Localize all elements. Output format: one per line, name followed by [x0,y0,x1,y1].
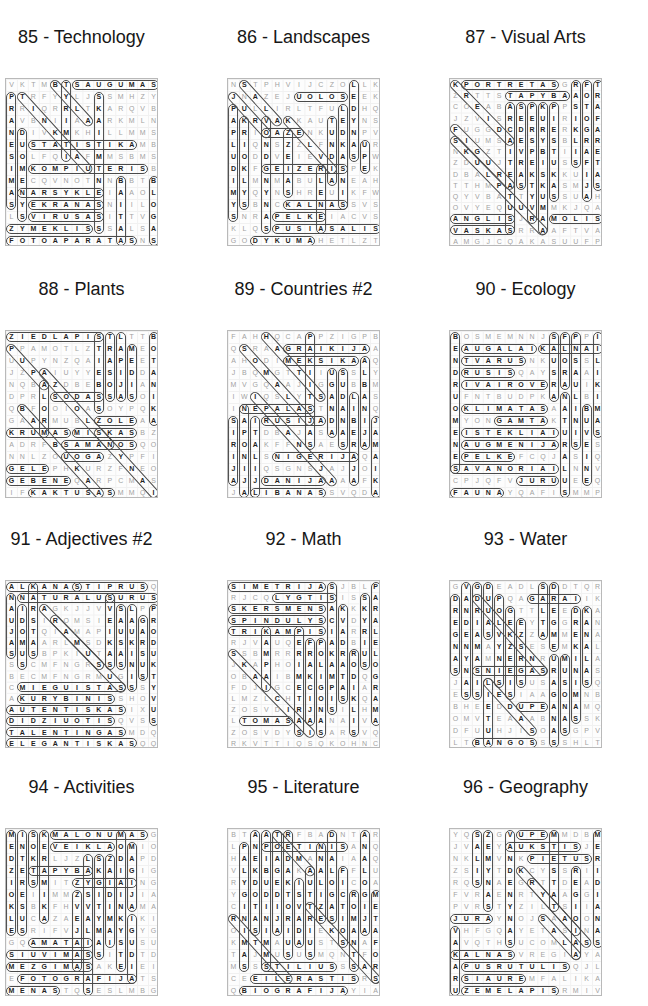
grid-letter: P [17,343,28,355]
grid-letter: A [483,889,494,901]
grid-letter: G [472,146,483,157]
grid-letter: I [283,451,294,463]
grid-letter: S [537,677,548,689]
grid-letter: S [305,403,316,415]
grid-letter: J [359,427,370,439]
grid-letter: O [494,605,505,617]
grid-letter: T [315,403,326,415]
grid-letter: A [527,713,538,725]
grid-letter: A [72,115,83,127]
grid-letter: P [137,603,148,614]
grid-letter: K [28,581,39,592]
grid-letter: R [28,391,39,403]
grid-letter: F [39,151,50,163]
grid-letter: G [348,331,359,343]
grid-letter: U [548,475,559,487]
grid-letter: I [126,163,137,175]
grid-letter: Y [461,653,472,665]
grid-letter: S [548,236,559,246]
puzzle-grid: GVGDEADLSDDTQRDADUPQAGARAIIKRNRUOGTTLEED… [449,580,602,748]
grid-letter: A [337,682,348,693]
grid-letter: Z [61,355,72,367]
grid-letter: E [494,427,505,439]
grid-letter: A [6,704,17,715]
grid-letter: M [93,671,104,682]
grid-letter: N [137,877,148,889]
grid-letter: V [6,79,17,91]
grid-letter: M [483,853,494,865]
grid-letter: E [370,637,380,648]
grid-letter: A [370,615,380,626]
grid-letter: C [272,693,283,704]
grid-letter: S [239,79,250,91]
grid-letter: R [239,626,250,637]
grid-letter: U [516,841,527,853]
grid-letter: U [548,157,559,168]
grid-letter: M [39,79,50,91]
grid-letter: A [250,671,261,682]
grid-letter: Q [261,463,272,475]
grid-letter: A [137,475,148,487]
grid-letter: D [559,581,570,593]
grid-letter: A [72,961,83,973]
grid-letter: O [148,199,158,211]
grid-letter: A [83,865,94,877]
puzzle-title: 95 - Literature [227,776,380,798]
grid-letter: R [28,603,39,614]
grid-letter: V [450,225,461,236]
grid-letter: I [505,146,516,157]
grid-letter: K [261,626,272,637]
grid-letter: U [537,113,548,124]
grid-letter: Y [148,682,158,693]
grid-letter: T [83,103,94,115]
grid-letter: M [592,829,602,841]
grid-letter: R [592,135,602,146]
grid-letter: M [494,439,505,451]
grid-letter: K [548,169,559,180]
grid-letter: Y [581,949,592,961]
grid-letter: I [370,463,380,475]
grid-letter: R [537,653,548,665]
grid-letter: R [359,973,370,985]
grid-letter: A [61,581,72,592]
grid-letter: N [83,693,94,704]
grid-letter: G [505,737,516,748]
grid-letter: S [17,925,28,937]
grid-letter: N [581,629,592,641]
grid-letter: E [305,163,316,175]
grid-letter: V [461,202,472,213]
grid-letter: G [104,79,115,91]
grid-letter: S [83,961,94,973]
grid-letter: M [6,175,17,187]
grid-letter: E [39,463,50,475]
grid-letter: Y [348,985,359,996]
grid-letter: D [148,853,158,865]
grid-letter: N [126,659,137,670]
grid-letter: J [305,79,316,91]
puzzle-title: 94 - Activities [5,776,158,798]
grid-letter: F [305,637,316,648]
grid-letter: I [28,889,39,901]
grid-letter: J [115,379,126,391]
grid-letter: S [83,985,94,996]
grid-letter: T [494,146,505,157]
grid-letter: A [72,937,83,949]
grid-letter: S [137,223,148,235]
grid-letter: L [505,343,516,355]
grid-letter: R [283,581,294,592]
grid-letter: A [581,367,592,379]
grid-letter: I [126,913,137,925]
grid-letter: C [283,682,294,693]
grid-letter: Z [17,367,28,379]
grid-letter: U [516,701,527,713]
grid-letter: K [326,648,337,659]
grid-letter: E [570,877,581,889]
grid-letter: D [548,581,559,593]
grid-letter: D [239,682,250,693]
grid-letter: Q [592,677,602,689]
grid-letter: A [126,829,137,841]
grid-letter: G [450,581,461,593]
grid-letter: T [61,937,72,949]
grid-letter: S [115,937,126,949]
grid-letter: Y [505,487,516,498]
